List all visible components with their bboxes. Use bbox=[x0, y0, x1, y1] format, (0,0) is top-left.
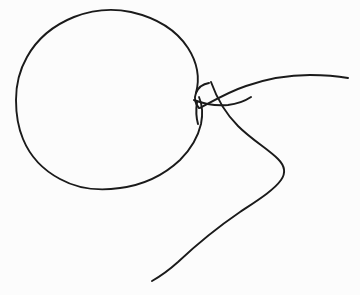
line-art-illustration bbox=[0, 0, 360, 295]
canvas-background bbox=[0, 0, 360, 295]
drawing-canvas bbox=[0, 0, 360, 295]
